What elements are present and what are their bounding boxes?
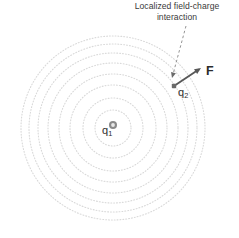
leader-dashed-line [173,26,186,75]
force-vector-label: F [206,64,214,78]
force-vector-arrow [174,68,201,86]
source-charge-label: q1 [102,124,112,136]
test-charge-subscript: 2 [184,91,188,100]
electric-field-diagram: Localized field-charge interaction q1 q2… [0,0,239,238]
source-charge-subscript: 1 [108,129,112,138]
test-charge-label: q2 [178,86,188,98]
test-charge-marker [172,84,176,88]
figure-caption: Localized field-charge interaction [118,1,236,23]
leader-arrowhead-icon [171,72,176,78]
annotation-leader [171,26,186,78]
caption-line-1: Localized field-charge [118,1,236,12]
diagram-canvas [0,0,239,238]
caption-line-2: interaction [118,12,236,23]
